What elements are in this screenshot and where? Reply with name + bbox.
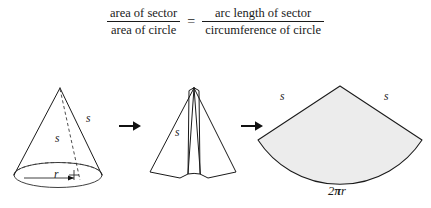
- unrolling-slant-label: s: [175, 126, 179, 138]
- sector-right-edge-label: s: [384, 90, 388, 102]
- equals-sign: =: [187, 14, 195, 30]
- left-fraction-denominator: area of circle: [108, 22, 179, 37]
- cone-inner-slant-label: s: [55, 132, 59, 144]
- unrolling-left-flap: [150, 88, 194, 178]
- cone-interior-slant-dashed: [60, 89, 80, 180]
- right-fraction-denominator: circumference of circle: [202, 22, 324, 37]
- sector-diagram: s s 2πr: [252, 74, 428, 200]
- unrolling-cone-diagram: s: [148, 74, 240, 200]
- transition-arrow-1: [118, 116, 142, 136]
- right-fraction-numerator: arc length of sector: [212, 6, 314, 21]
- cone-left-slant-edge: [14, 88, 60, 175]
- cone-sector-derivation-figure: area of sector area of circle = arc leng…: [0, 0, 431, 208]
- sector-arc-length-label: 2πr: [328, 184, 346, 199]
- arc-label-suffix: r: [341, 184, 346, 198]
- proportion-equation: area of sector area of circle = arc leng…: [0, 6, 431, 37]
- arrow-right-icon: [119, 121, 141, 131]
- cone-outer-slant-label: s: [86, 112, 90, 124]
- cone-radius-label: r: [54, 168, 58, 180]
- left-fraction: area of sector area of circle: [107, 6, 180, 37]
- unrolling-center-wedge: [188, 88, 200, 174]
- cone-diagram: s s r: [8, 74, 120, 200]
- unrolling-right-flap: [194, 88, 236, 178]
- right-fraction: arc length of sector circumference of ci…: [202, 6, 324, 37]
- left-fraction-numerator: area of sector: [107, 6, 180, 21]
- cone-radius-arrowhead: [68, 176, 74, 181]
- cone-right-slant-edge: [60, 88, 102, 175]
- sector-left-edge-label: s: [280, 90, 284, 102]
